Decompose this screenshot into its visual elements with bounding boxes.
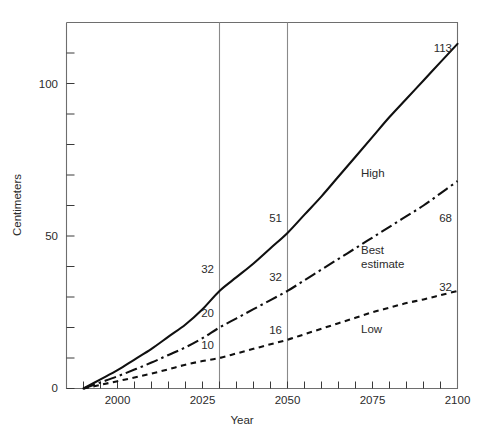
x-label-2050: 2050 xyxy=(275,394,301,406)
high-2050-value: 51 xyxy=(269,212,282,224)
best-2030-value: 20 xyxy=(201,307,214,319)
y-label-0: 0 xyxy=(52,382,58,394)
series-label-best-line1: Best xyxy=(361,244,385,256)
x-axis-ticks xyxy=(84,382,441,389)
y-axis-labels: 0 50 100 xyxy=(39,78,58,395)
x-axis-title: Year xyxy=(230,414,253,426)
x-axis-labels: 2000 2025 2050 2075 2100 xyxy=(105,394,471,406)
x-label-2075: 2075 xyxy=(360,394,386,406)
x-label-2100: 2100 xyxy=(445,394,471,406)
low-2100-value: 32 xyxy=(439,281,452,293)
series-label-high: High xyxy=(361,167,385,179)
y-axis-title: Centimeters xyxy=(11,174,23,236)
value-annotations: 32 20 10 51 32 16 113 68 32 xyxy=(201,42,452,351)
x-label-2025: 2025 xyxy=(190,394,216,406)
series-label-best-line2: estimate xyxy=(361,258,404,270)
series-label-low: Low xyxy=(361,323,383,335)
x-label-2000: 2000 xyxy=(105,394,131,406)
low-2050-value: 16 xyxy=(269,324,282,336)
frame-border xyxy=(67,23,458,389)
plot-frame xyxy=(67,23,458,389)
high-2100-value: 113 xyxy=(434,42,452,54)
y-axis-ticks xyxy=(67,53,75,389)
best-2100-value: 68 xyxy=(439,212,452,224)
high-2030-value: 32 xyxy=(201,263,214,275)
best-2050-value: 32 xyxy=(269,271,282,283)
low-2030-value: 10 xyxy=(201,339,214,351)
chart-canvas: 0 50 100 Centimeters xyxy=(0,0,485,444)
y-label-100: 100 xyxy=(39,78,58,90)
series-labels: High Best estimate Low xyxy=(361,167,404,335)
y-label-50: 50 xyxy=(45,230,58,242)
sea-level-projection-chart: 0 50 100 Centimeters xyxy=(0,0,485,444)
series-line-low xyxy=(84,291,458,389)
